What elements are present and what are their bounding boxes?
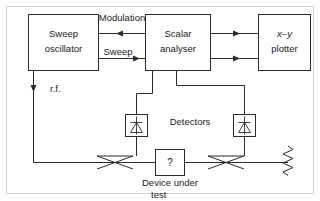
block-scalar-analyser: Scalar analyser — [146, 15, 211, 71]
wire-modulation: Modulation — [99, 12, 146, 37]
wire-analyser-to-plotter — [211, 31, 259, 62]
modulation-arrowhead — [116, 31, 123, 37]
detectors-label: Detectors — [170, 116, 211, 127]
wire-sweep: Sweep — [99, 46, 146, 62]
device-under-test-label-line1: Device under — [142, 177, 198, 188]
detector-right — [234, 115, 256, 157]
detector-left-feed — [137, 71, 153, 115]
matched-load-resistor-icon — [283, 146, 293, 176]
sweep-oscillator-label-line2: oscillator — [45, 43, 83, 54]
sweep-oscillator-label-line1: Sweep — [49, 28, 78, 39]
scalar-analyser-label-line1: Scalar — [165, 28, 192, 39]
plotter-lower-arrowhead — [233, 56, 240, 62]
wire-analyser-to-detectors — [137, 71, 245, 115]
plotter-upper-arrowhead — [233, 31, 240, 37]
diagram-canvas: Sweep oscillator Scalar analyser x–y plo… — [0, 0, 320, 200]
block-sweep-oscillator: Sweep oscillator — [29, 15, 99, 71]
xy-plotter-label-line1: x–y — [276, 28, 293, 39]
detector-right-feed — [177, 71, 245, 115]
detector-left — [126, 115, 148, 157]
block-xy-plotter: x–y plotter — [259, 15, 311, 71]
block-device-under-test: ? Device under test — [142, 150, 198, 201]
device-under-test-symbol: ? — [167, 157, 173, 168]
wire-rf: r.f. — [31, 71, 98, 163]
xy-plotter-label-line2: plotter — [271, 43, 297, 54]
rf-label: r.f. — [50, 83, 61, 94]
rf-line — [34, 71, 98, 163]
rf-arrowhead — [31, 85, 37, 92]
termination — [283, 146, 293, 176]
device-under-test-label-line2: test — [151, 189, 167, 200]
modulation-label: Modulation — [99, 12, 145, 23]
block-diagram-svg: Sweep oscillator Scalar analyser x–y plo… — [0, 0, 320, 200]
scalar-analyser-label-line2: analyser — [160, 43, 196, 54]
sweep-label: Sweep — [103, 46, 132, 57]
sweep-arrowhead — [133, 56, 140, 62]
